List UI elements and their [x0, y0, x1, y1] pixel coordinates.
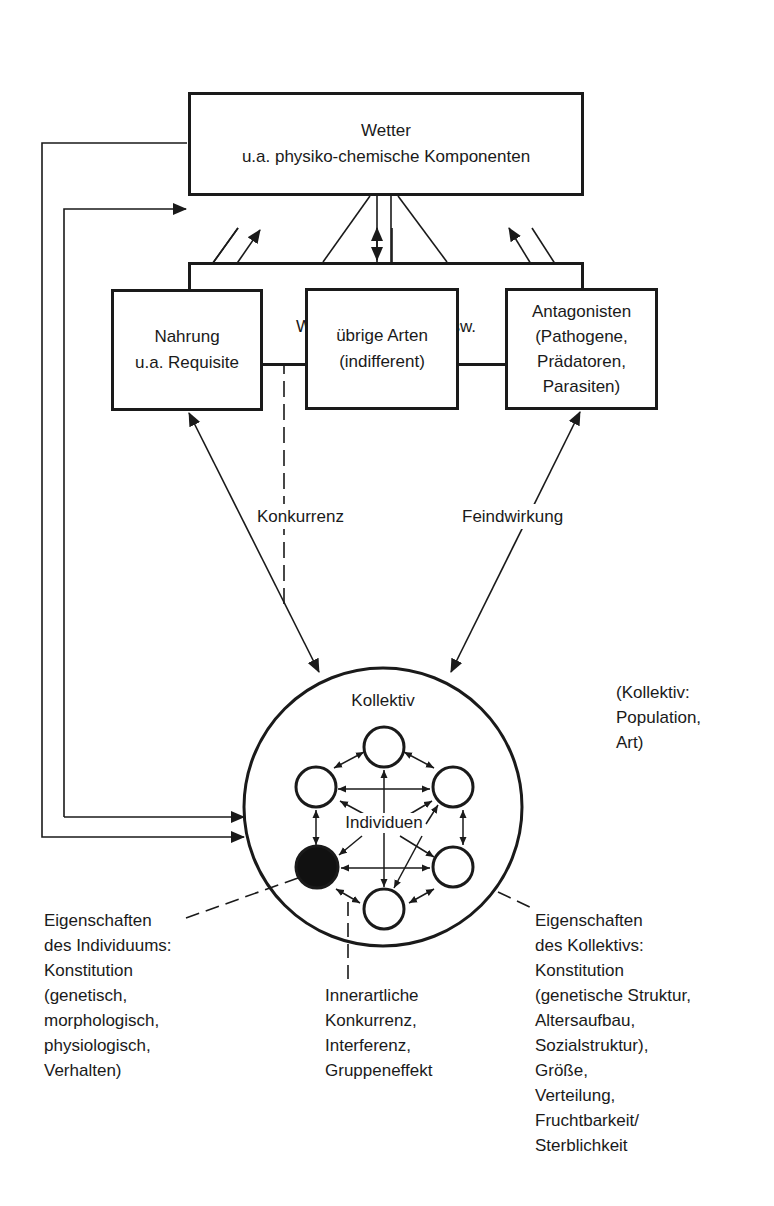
annotation-innerartlich: Innerartliche Konkurrenz, Interferenz, G…: [325, 983, 432, 1083]
kollektiv-note: (Kollektiv: Population, Art): [616, 680, 701, 755]
wetter-habitat-connectors: [323, 196, 447, 262]
individual-upper-left: [296, 767, 336, 807]
antagonisten-line3: Prädatoren,: [537, 349, 626, 374]
nahrung-subtitle: u.a. Requisite: [135, 350, 239, 376]
wetter-subtitle: u.a. physiko-chemische Komponenten: [242, 144, 530, 170]
nahrung-title: Nahrung: [154, 324, 219, 350]
callout-kollektiv: [498, 892, 532, 908]
label-feindwirkung: Feindwirkung: [460, 504, 565, 529]
antagonisten-line4: Parasiten): [543, 374, 620, 399]
antagonisten-title: Antagonisten: [532, 299, 631, 324]
box-antagonisten: Antagonisten (Pathogene, Prädatoren, Par…: [505, 288, 658, 410]
callout-individuum: [186, 878, 298, 918]
individual-highlighted: [296, 846, 338, 888]
box-nahrung: Nahrung u.a. Requisite: [111, 289, 263, 411]
arrow-antagonisten-kollektiv: [451, 412, 580, 672]
label-konkurrenz: Konkurrenz: [255, 504, 346, 529]
individual-top: [364, 727, 404, 767]
individual-bottom: [364, 889, 404, 929]
individuen-label: Individuen: [344, 813, 424, 833]
annotation-individuum: Eigenschaften des Individuums: Konstitut…: [44, 908, 172, 1083]
kollektiv-title: Kollektiv: [351, 688, 414, 713]
arrow-nahrung-kollektiv: [189, 413, 319, 672]
uebrige-title: übrige Arten: [336, 323, 428, 349]
annotation-kollektiv: Eigenschaften des Kollektivs: Konstituti…: [535, 908, 691, 1158]
box-wetter: Wetter u.a. physiko-chemische Komponente…: [188, 92, 584, 196]
individual-lower-right: [433, 847, 473, 887]
wetter-title: Wetter: [361, 118, 411, 144]
feedback-wetter-kollektiv: [42, 143, 244, 837]
antagonisten-line2: (Pathogene,: [535, 324, 628, 349]
uebrige-subtitle: (indifferent): [339, 349, 425, 375]
box-uebrige-arten: übrige Arten (indifferent): [305, 288, 459, 410]
individual-upper-right: [433, 767, 473, 807]
